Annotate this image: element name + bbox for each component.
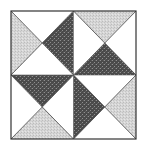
quilt-block bbox=[0, 0, 148, 148]
seam-lines bbox=[11, 11, 136, 139]
quilt-block-diagram bbox=[0, 0, 148, 148]
